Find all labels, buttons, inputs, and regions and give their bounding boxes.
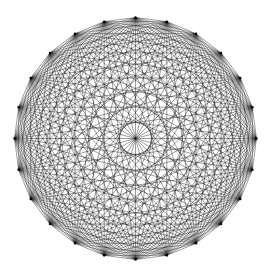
graph-vertex [166,20,168,22]
graph-vertex [255,137,257,139]
graph-vertex [251,106,253,108]
graph-vertex [13,137,15,139]
graph-vertex [74,242,76,244]
graph-vertex [134,16,136,18]
graph-vertex [49,52,51,54]
graph-vertex [195,242,197,244]
graph-vertex [17,169,19,171]
graph-vertex [30,198,32,200]
graph-vertex [103,20,105,22]
complete-graph-diagram [0,0,273,275]
graph-vertex [49,223,51,225]
graph-vertex [17,106,19,108]
graph-edges [15,18,257,260]
graph-vertex [30,77,32,79]
graph-vertex [239,198,241,200]
graph-vertex [251,169,253,171]
graph-vertex [74,33,76,35]
graph-vertex [103,254,105,256]
graph-vertex [134,258,136,260]
graph-vertex [220,223,222,225]
graph-vertex [239,77,241,79]
graph-vertex [195,33,197,35]
graph-vertex [220,52,222,54]
graph-vertex [166,254,168,256]
